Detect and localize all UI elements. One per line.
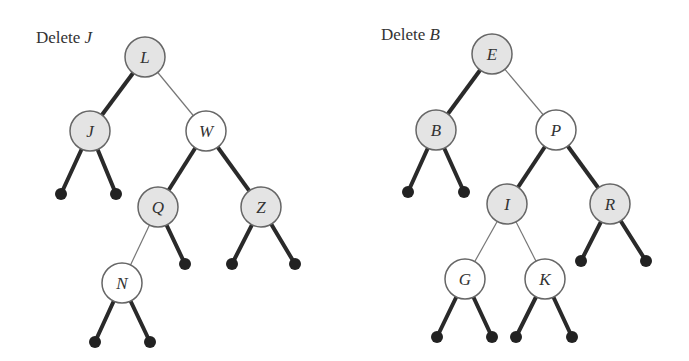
node-R: R xyxy=(590,184,630,224)
node-Z: Z xyxy=(241,187,281,227)
node-Q: Q xyxy=(138,187,178,227)
node-label: P xyxy=(550,121,561,140)
node-G: G xyxy=(445,259,485,299)
node-label: E xyxy=(486,45,498,64)
node-E: E xyxy=(472,34,512,74)
nil-leaf-icon xyxy=(55,188,67,200)
node-label: G xyxy=(459,270,471,289)
nil-leaf-icon xyxy=(89,336,101,348)
nil-leaf-icon xyxy=(486,331,498,343)
red-black-tree-deletion-diagram: Delete J Delete B LJWQZNEBPIRGK xyxy=(0,0,689,361)
tree-B: EBPIRGK xyxy=(402,34,652,343)
nil-leaf-icon xyxy=(179,258,191,270)
node-label: W xyxy=(199,122,215,141)
node-I: I xyxy=(487,184,527,224)
node-label: B xyxy=(431,121,442,140)
node-P: P xyxy=(536,110,576,150)
nil-leaf-icon xyxy=(458,186,470,198)
node-L: L xyxy=(125,37,165,77)
nil-leaf-icon xyxy=(510,331,522,343)
nil-leaf-icon xyxy=(566,331,578,343)
nil-leaf-icon xyxy=(144,336,156,348)
tree-graphics: LJWQZNEBPIRGK xyxy=(0,0,689,361)
node-B: B xyxy=(416,110,456,150)
node-label: L xyxy=(139,48,149,67)
nil-leaf-icon xyxy=(226,258,238,270)
node-label: R xyxy=(604,195,616,214)
nil-leaf-icon xyxy=(402,186,414,198)
node-W: W xyxy=(186,111,226,151)
node-J: J xyxy=(70,111,110,151)
nil-leaf-icon xyxy=(110,188,122,200)
node-label: N xyxy=(115,274,129,293)
tree-J: LJWQZN xyxy=(55,37,301,348)
nil-leaf-icon xyxy=(289,258,301,270)
nil-leaf-icon xyxy=(575,255,587,267)
node-label: Z xyxy=(256,198,266,217)
nil-leaf-icon xyxy=(431,331,443,343)
node-K: K xyxy=(525,259,565,299)
nil-leaf-icon xyxy=(640,255,652,267)
node-label: K xyxy=(538,270,552,289)
node-N: N xyxy=(102,263,142,303)
node-label: Q xyxy=(152,198,164,217)
